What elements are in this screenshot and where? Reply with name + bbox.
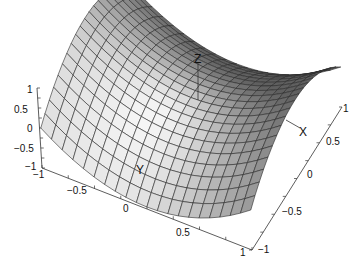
front-tick-label: 0.5 xyxy=(176,227,190,238)
x-axis-name: X xyxy=(299,125,307,139)
right-tick-label: 1 xyxy=(343,103,349,114)
z-tick-label: 0 xyxy=(27,123,33,134)
z-tick-label: −0.5 xyxy=(14,143,34,154)
right-tick-label: −0.5 xyxy=(282,206,302,217)
x-label-pointer xyxy=(286,120,300,128)
front-tick-label: −0.5 xyxy=(67,185,87,196)
right-tick-label: −1 xyxy=(258,244,270,255)
z-tick-label: 0.5 xyxy=(14,104,28,115)
right-tick-label: 0.5 xyxy=(326,136,340,147)
y-axis-name: Y xyxy=(136,163,144,177)
right-tick-label: 0 xyxy=(307,169,313,180)
front-tick-label: 0 xyxy=(123,203,129,214)
front-tick-label: −1 xyxy=(33,169,45,180)
front-tick-label: 1 xyxy=(240,247,246,258)
z-tick-label: 1 xyxy=(27,84,33,95)
surface-plot: Z X Y 1 0.5 0 −0.5 −1 −1 −0.5 0 0.5 1 −1… xyxy=(0,0,362,270)
z-axis-name: Z xyxy=(194,52,201,66)
